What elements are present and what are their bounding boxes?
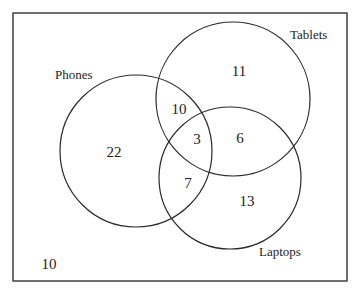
region-phones-laptops: 7 bbox=[184, 175, 192, 191]
tablets-label: Tablets bbox=[290, 27, 327, 42]
region-tablets-laptops: 6 bbox=[236, 130, 244, 146]
region-laptops-only: 13 bbox=[240, 193, 255, 209]
region-phones-only: 22 bbox=[107, 144, 122, 160]
region-none: 10 bbox=[42, 256, 57, 272]
phones-label: Phones bbox=[55, 67, 93, 82]
venn-diagram: Phones Tablets Laptops 22 11 13 10 7 6 3… bbox=[0, 0, 360, 289]
region-all-three: 3 bbox=[193, 131, 201, 147]
universal-set-frame bbox=[13, 13, 347, 281]
laptops-label: Laptops bbox=[259, 244, 301, 259]
region-phones-tablets: 10 bbox=[172, 101, 187, 117]
region-tablets-only: 11 bbox=[232, 63, 246, 79]
